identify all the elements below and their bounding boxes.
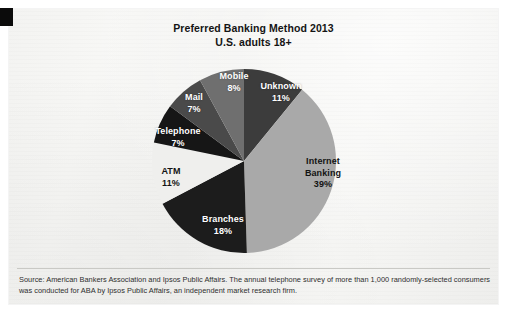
pie-label-branches-value: 18% bbox=[214, 226, 232, 236]
pie-label-unknown-name: Unknown bbox=[260, 81, 301, 91]
pie-label-telephone-name: Telephone bbox=[155, 126, 200, 136]
source-divider bbox=[17, 268, 490, 269]
pie-label-mobile: Mobile 8% bbox=[208, 71, 260, 94]
pie-label-telephone-value: 7% bbox=[171, 138, 184, 148]
pie-label-mail-value: 7% bbox=[187, 104, 200, 114]
pie-label-telephone: Telephone 7% bbox=[145, 126, 211, 149]
source-note: Source: American Bankers Association and… bbox=[19, 274, 489, 297]
chart-card: Preferred Banking Method 2013 U.S. adult… bbox=[9, 9, 498, 304]
pie-label-internet-banking-name1: Internet bbox=[306, 156, 340, 166]
pie-label-branches-name: Branches bbox=[202, 214, 244, 224]
pie-label-atm-value: 11% bbox=[162, 178, 180, 188]
source-note-line-1: Source: American Bankers Association and… bbox=[19, 274, 489, 285]
screenshot-root: Preferred Banking Method 2013 U.S. adult… bbox=[0, 0, 507, 316]
pie-label-atm-name: ATM bbox=[161, 166, 180, 176]
pie-label-internet-banking: Internet Banking 39% bbox=[287, 156, 359, 191]
pie-label-mobile-name: Mobile bbox=[219, 71, 248, 81]
pie-label-internet-banking-name2: Banking bbox=[305, 168, 341, 178]
pie-label-mail-name: Mail bbox=[185, 92, 203, 102]
corner-registration-mark bbox=[0, 8, 13, 26]
source-note-line-2: was conducted for ABA by Ipsos Public Af… bbox=[19, 285, 489, 296]
pie-label-mail: Mail 7% bbox=[172, 92, 216, 115]
pie-label-branches: Branches 18% bbox=[190, 214, 256, 237]
pie-label-atm: ATM 11% bbox=[145, 166, 197, 189]
pie-label-mobile-value: 8% bbox=[227, 83, 240, 93]
pie-label-unknown-value: 11% bbox=[272, 93, 290, 103]
pie-label-internet-banking-value: 39% bbox=[314, 179, 332, 189]
pie-chart: Unknown 11% Internet Banking 39% Branche… bbox=[9, 9, 498, 304]
